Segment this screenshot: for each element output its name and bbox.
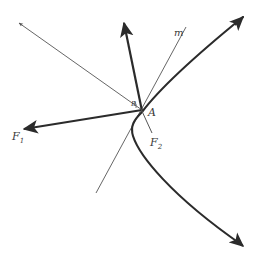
- label-f1: F1: [11, 130, 24, 145]
- geometry-figure: F1 F2 A B m: [0, 0, 256, 260]
- label-f2: F2: [149, 136, 163, 151]
- geometry-canvas: F1 F2 A B m: [0, 0, 256, 260]
- hyperbola-branch: [132, 17, 243, 245]
- focal-ray-upper-left: [19, 23, 142, 110]
- vector-resultant-up: [124, 23, 142, 111]
- vector-f1: [24, 110, 142, 129]
- label-line-m: m: [174, 27, 183, 38]
- label-point-a: A: [147, 106, 156, 119]
- hyperbola-lower-arrow-stub: [236, 240, 243, 246]
- label-point-b: B: [130, 100, 136, 108]
